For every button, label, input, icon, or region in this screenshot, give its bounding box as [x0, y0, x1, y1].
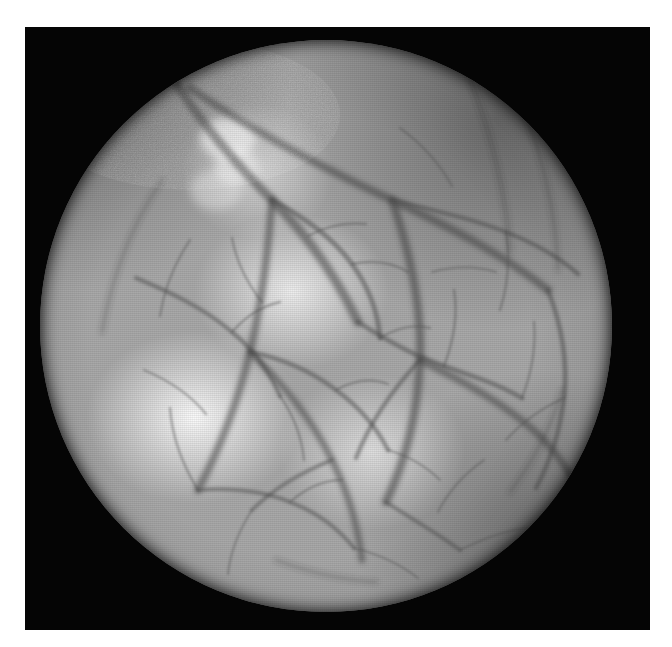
photograph-frame	[25, 27, 650, 630]
circular-field-of-view	[40, 40, 612, 612]
field-vignette	[40, 40, 612, 612]
film-grain-texture	[40, 40, 340, 190]
secondary-vessels	[136, 200, 578, 550]
blood-vessel-network	[40, 40, 612, 608]
fine-vessel-branches	[144, 128, 564, 578]
image-canvas: { "page": { "background_color": "#ffffff…	[0, 0, 672, 647]
bright-nodule	[190, 117, 258, 210]
halftone-raster-texture	[40, 40, 612, 612]
tissue-striations	[102, 80, 562, 582]
field-edge-feather	[40, 40, 612, 612]
major-vessels	[158, 54, 586, 560]
